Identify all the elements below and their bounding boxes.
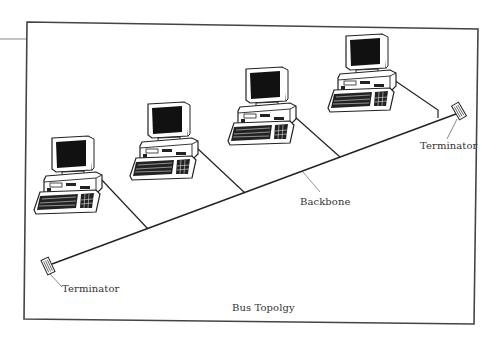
drop-cable-4 <box>394 80 438 118</box>
diagram-title: Bus Topolgy <box>232 302 295 313</box>
computer-4 <box>328 34 396 112</box>
terminator-left-icon <box>41 257 55 275</box>
drop-cable-2 <box>197 148 245 193</box>
drop-cable-3 <box>294 116 340 157</box>
bus-topology-diagram: Backbone Terminator Terminator Bus Topol… <box>0 0 496 342</box>
terminator-right-icon <box>452 102 467 120</box>
computer-2 <box>130 102 198 180</box>
backbone-label: Backbone <box>300 196 351 207</box>
terminator-left-leader <box>50 274 62 287</box>
drop-cable-1 <box>100 178 148 229</box>
terminator-right-label: Terminator <box>420 140 478 151</box>
backbone-leader <box>303 172 320 192</box>
terminator-right-leader <box>447 119 457 139</box>
computer-1 <box>34 136 102 214</box>
computer-3 <box>228 67 296 145</box>
terminator-left-label: Terminator <box>62 283 120 294</box>
